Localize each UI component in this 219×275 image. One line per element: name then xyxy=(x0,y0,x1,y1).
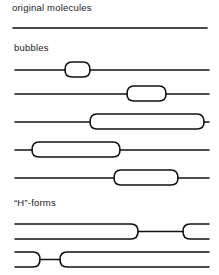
replication-diagram xyxy=(0,0,219,275)
bubble-molecule-5 xyxy=(15,170,209,185)
h-form-molecule-2 xyxy=(15,252,209,267)
bubble-molecule-4 xyxy=(15,142,209,157)
bubble-molecule-1 xyxy=(15,62,209,77)
bubble-molecule-3 xyxy=(15,114,209,129)
h-form-molecule-1 xyxy=(15,224,209,239)
bubble-molecule-2 xyxy=(15,86,209,101)
